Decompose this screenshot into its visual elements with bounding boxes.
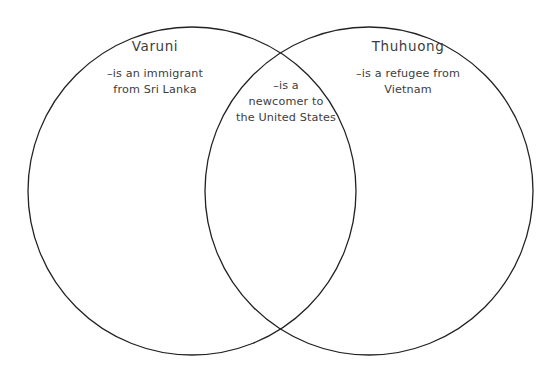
region-overlap: –is a newcomer to the United States [226,78,346,126]
venn-diagram-canvas: Varuni –is an immigrant from Sri Lanka –… [0,0,554,376]
venn-text-layer: Varuni –is an immigrant from Sri Lanka –… [0,0,554,376]
left-only-item-2: from Sri Lanka [95,82,215,98]
region-left-only: Varuni –is an immigrant from Sri Lanka [95,38,215,98]
overlap-items: –is a newcomer to the United States [226,78,346,126]
right-only-item-1: –is a refugee from [348,66,468,82]
left-only-item-1: –is an immigrant [95,66,215,82]
right-only-item-2: Vietnam [348,82,468,98]
region-right-only: Thuhuong –is a refugee from Vietnam [348,38,468,98]
left-only-items: –is an immigrant from Sri Lanka [95,66,215,98]
left-circle-title: Varuni [95,38,215,54]
right-only-items: –is a refugee from Vietnam [348,66,468,98]
overlap-item-3: the United States [226,110,346,126]
right-circle-title: Thuhuong [348,38,468,54]
overlap-item-2: newcomer to [226,94,346,110]
overlap-item-1: –is a [226,78,346,94]
